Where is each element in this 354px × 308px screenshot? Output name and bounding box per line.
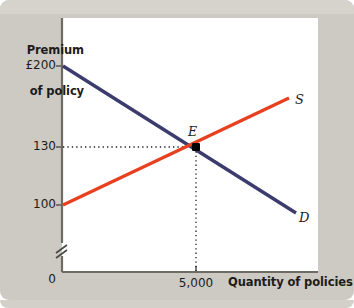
supply-demand-figure: Premium of policy Quantity of policies £… <box>0 0 354 308</box>
x-tick-label-5000: 5,000 <box>168 276 224 290</box>
y-axis-title-line1: Premium <box>24 44 84 58</box>
demand-curve-label: D <box>299 210 309 225</box>
origin-label: 0 <box>8 272 56 286</box>
equilibrium-point-marker <box>192 143 200 151</box>
y-tick-label-200: £200 <box>8 58 56 72</box>
y-axis-title-line2: of policy <box>24 85 84 99</box>
equilibrium-point-label: E <box>188 124 197 139</box>
y-tick-label-130: 130 <box>8 139 56 153</box>
y-tick-label-100: 100 <box>8 197 56 211</box>
demand-curve <box>63 66 296 213</box>
x-axis-title: Quantity of policies <box>228 276 353 290</box>
supply-curve-label: S <box>295 92 304 107</box>
